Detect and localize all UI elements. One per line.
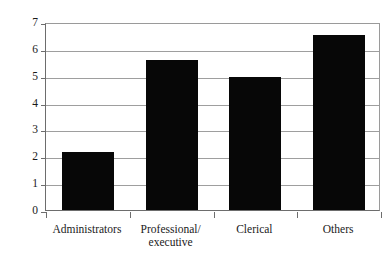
y-tick-label: 0 (20, 205, 38, 217)
y-tick-mark (41, 105, 46, 106)
y-tick-mark (41, 78, 46, 79)
x-tick-mark (297, 212, 298, 218)
bar (313, 35, 365, 210)
x-tick-mark (130, 212, 131, 218)
x-tick-mark (46, 212, 47, 218)
y-tick-mark (41, 24, 46, 25)
x-category-label: Professional/ executive (129, 223, 213, 249)
y-tick-label: 7 (20, 17, 38, 29)
bar (146, 60, 198, 210)
y-tick-label: 2 (20, 151, 38, 163)
bar (62, 152, 114, 210)
y-tick-label: 5 (20, 71, 38, 83)
bar (229, 77, 281, 210)
y-tick-label: 1 (20, 178, 38, 190)
y-tick-mark (41, 185, 46, 186)
y-tick-label: 4 (20, 98, 38, 110)
y-tick-label: 6 (20, 44, 38, 56)
y-tick-mark (41, 51, 46, 52)
x-tick-mark (214, 212, 215, 218)
y-tick-mark (41, 131, 46, 132)
y-tick-mark (41, 158, 46, 159)
plot-area (45, 23, 380, 211)
x-tick-mark (381, 212, 382, 218)
bar-chart-figure: 10-year mortality (%) 76543210 Administr… (0, 0, 392, 268)
y-tick-label: 3 (20, 124, 38, 136)
x-category-label: Administrators (45, 223, 129, 236)
x-category-label: Clerical (213, 223, 297, 236)
x-category-label: Others (296, 223, 380, 236)
